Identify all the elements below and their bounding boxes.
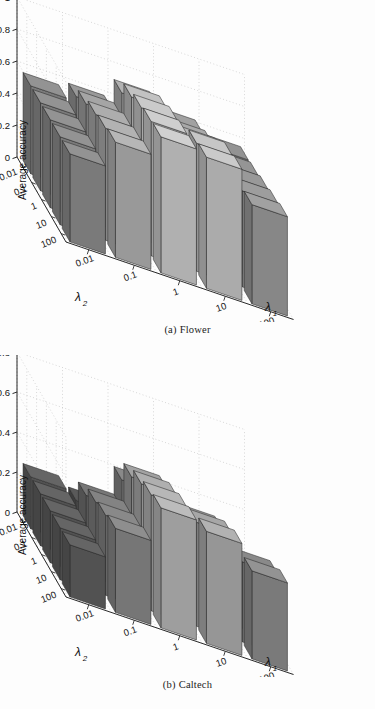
bar-3d	[244, 558, 287, 671]
x-tick-label: 1	[171, 285, 180, 297]
z-axis-title: λ	[74, 645, 81, 659]
z-tick-label: 10	[34, 572, 48, 586]
x-tick-label: 1	[171, 640, 180, 652]
z-tick-label: 1	[29, 200, 38, 212]
caption-a-text: Flower	[180, 324, 211, 335]
x-axis-title-subscript: 1	[273, 664, 277, 673]
x-tick-label: 0.01	[74, 607, 95, 624]
bar-3d	[108, 129, 151, 270]
caption-b: (b)Caltech	[0, 677, 375, 690]
z-tick-label: 10	[34, 217, 48, 231]
x-tick-label: 10	[214, 300, 228, 314]
x-tick-label: 10	[214, 655, 228, 669]
x-tick-label: 0.01	[74, 252, 95, 269]
y-tick-label: 0.6	[0, 387, 10, 398]
x-tick-label: 0.1	[122, 624, 138, 639]
caption-a: (a)Flower	[0, 322, 375, 335]
bar-3d	[62, 141, 105, 254]
caption-b-label: (b)	[163, 679, 176, 690]
chart-caltech-svg: 00.20.40.60.80.010.11101000.010.1110100A…	[0, 355, 375, 677]
z-tick-label: 1	[29, 555, 38, 567]
x-axis-title: λ	[264, 655, 271, 669]
y-axis-title: Average accuracy	[17, 475, 28, 555]
y-tick-label: 0	[5, 507, 10, 518]
z-tick-label: 100	[39, 234, 58, 250]
caption-a-label: (a)	[164, 324, 176, 335]
bar-3d	[199, 518, 242, 655]
caption-b-text: Caltech	[179, 679, 212, 690]
figure-panel-a: 00.20.40.60.810.010.11101000.010.1110100…	[0, 0, 375, 354]
figure-panel-b: 00.20.40.60.80.010.11101000.010.1110100A…	[0, 355, 375, 709]
z-tick-label: 0.01	[0, 166, 19, 183]
bars-layer	[23, 464, 287, 671]
y-tick-label: 0.8	[0, 24, 10, 35]
bar-3d	[244, 191, 287, 316]
chart-caltech: 00.20.40.60.80.010.11101000.010.1110100A…	[0, 355, 375, 677]
figure-page: 00.20.40.60.810.010.11101000.010.1110100…	[0, 0, 375, 709]
y-tick-label: 0.2	[0, 120, 10, 131]
z-tick-label: 100	[39, 589, 58, 605]
y-tick-label: 1	[5, 0, 10, 3]
y-tick-label: 0.8	[0, 355, 10, 358]
z-axis-title-subscript: 2	[82, 654, 88, 663]
chart-flower-svg: 00.20.40.60.810.010.11101000.010.1110100…	[0, 0, 375, 322]
x-axis-title: λ	[264, 300, 271, 314]
z-tick-label: 0.01	[0, 521, 19, 538]
z-axis-title: λ	[74, 290, 81, 304]
bars-layer	[23, 73, 287, 316]
bar-3d	[153, 124, 196, 285]
y-tick-label: 0	[5, 152, 10, 163]
y-tick-label: 0.4	[0, 427, 10, 438]
y-tick-label: 0.6	[0, 56, 10, 67]
y-axis-title: Average accuracy	[17, 120, 28, 200]
bar-3d	[108, 515, 151, 624]
bar-3d	[153, 495, 196, 640]
z-axis-title-subscript: 2	[82, 299, 88, 308]
y-tick-label: 0.4	[0, 88, 10, 99]
y-tick-label: 0.2	[0, 467, 10, 478]
chart-flower: 00.20.40.60.810.010.11101000.010.1110100…	[0, 0, 375, 322]
bar-3d	[199, 144, 242, 301]
x-axis-title-subscript: 1	[273, 309, 277, 318]
x-tick-label: 0.1	[122, 269, 138, 284]
